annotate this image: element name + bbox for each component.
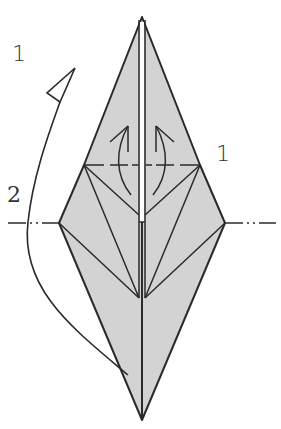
step-label-1-right: 1 [216,143,230,165]
step-label-2: 2 [7,184,21,206]
center-gap [140,22,144,222]
origami-diagram [0,0,281,429]
step-label-1-left: 1 [12,43,26,65]
